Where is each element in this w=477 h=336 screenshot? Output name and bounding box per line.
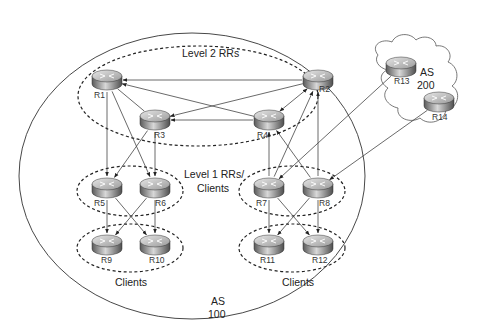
router-top-icon bbox=[386, 57, 416, 69]
router-top-icon bbox=[92, 235, 122, 247]
router-r8[interactable] bbox=[303, 178, 333, 198]
edges-layer bbox=[107, 76, 427, 235]
router-r12[interactable] bbox=[303, 235, 333, 255]
router-label-r2: R2 bbox=[319, 85, 330, 94]
router-label-r8: R8 bbox=[319, 199, 330, 208]
as200-label-line1: AS bbox=[420, 67, 434, 78]
router-top-icon bbox=[303, 70, 333, 82]
router-label-r6: R6 bbox=[155, 199, 166, 208]
router-label-r7: R7 bbox=[256, 199, 267, 208]
as100-label-line1: AS bbox=[211, 296, 225, 307]
router-label-r10: R10 bbox=[149, 256, 165, 265]
edge-r14-r8 bbox=[330, 110, 428, 179]
router-top-icon bbox=[92, 178, 122, 190]
router-r14[interactable] bbox=[424, 92, 454, 112]
level1-label-line1: Level 1 RRs/ bbox=[184, 169, 244, 180]
router-label-r4: R4 bbox=[257, 131, 268, 140]
router-top-icon bbox=[140, 110, 170, 122]
clients-right-label: Clients bbox=[282, 277, 314, 288]
router-top-icon bbox=[92, 70, 122, 82]
edge-r1-r3 bbox=[118, 89, 145, 111]
router-label-r11: R11 bbox=[260, 256, 275, 265]
router-r10[interactable] bbox=[140, 235, 170, 255]
router-label-r14: R14 bbox=[432, 113, 448, 122]
router-top-icon bbox=[140, 178, 170, 190]
router-r1[interactable] bbox=[92, 70, 122, 90]
router-r9[interactable] bbox=[92, 235, 122, 255]
edge-r1-r6 bbox=[112, 91, 150, 176]
router-top-icon bbox=[424, 92, 454, 104]
diagram-canvas: Level 2 RRs Level 1 RRs/ Clients Clients… bbox=[0, 0, 477, 336]
router-top-icon bbox=[254, 110, 284, 122]
level1-label-line2: Clients bbox=[197, 183, 229, 194]
router-label-r9: R9 bbox=[101, 256, 112, 265]
edge-r3-r5 bbox=[114, 131, 147, 178]
router-label-r5: R5 bbox=[94, 199, 105, 208]
edge-r7-r2 bbox=[274, 91, 313, 176]
router-r6[interactable] bbox=[140, 178, 170, 198]
router-r11[interactable] bbox=[254, 235, 284, 255]
router-top-icon bbox=[254, 178, 284, 190]
router-label-r3: R3 bbox=[154, 131, 165, 140]
router-r4[interactable] bbox=[254, 110, 284, 130]
edge-r13-r7 bbox=[279, 76, 391, 178]
edge-r4-r1 bbox=[122, 84, 254, 116]
edge-r8-r4 bbox=[277, 131, 311, 178]
edge-r2-r3 bbox=[170, 84, 303, 117]
router-top-icon bbox=[140, 235, 170, 247]
router-r3[interactable] bbox=[140, 110, 170, 130]
router-top-icon bbox=[303, 178, 333, 190]
clients-left-label: Clients bbox=[115, 277, 147, 288]
router-r7[interactable] bbox=[254, 178, 284, 198]
as200-label-line2: 200 bbox=[417, 80, 435, 91]
router-top-icon bbox=[254, 235, 284, 247]
router-label-r13: R13 bbox=[394, 77, 410, 86]
router-label-r1: R1 bbox=[94, 91, 105, 100]
level2-label: Level 2 RRs bbox=[182, 48, 239, 59]
as100-label-line2: 100 bbox=[208, 309, 226, 320]
edge-r4-r2 bbox=[280, 89, 307, 111]
router-top-icon bbox=[303, 235, 333, 247]
router-r13[interactable] bbox=[386, 57, 416, 77]
router-r5[interactable] bbox=[92, 178, 122, 198]
router-label-r12: R12 bbox=[312, 256, 328, 265]
